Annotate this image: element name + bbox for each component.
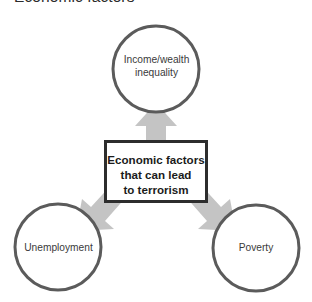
center-box-label: Economic factors that can lead to terror…	[106, 152, 206, 198]
node-income-wealth-inequality-label: Income/wealth inequality	[112, 53, 201, 79]
node-poverty-label: Poverty	[211, 241, 301, 254]
diagram-canvas: Economic factors Income/wealth inequalit…	[0, 0, 312, 302]
node-unemployment-label: Unemployment	[12, 241, 105, 254]
diagram-graphics	[0, 0, 312, 302]
